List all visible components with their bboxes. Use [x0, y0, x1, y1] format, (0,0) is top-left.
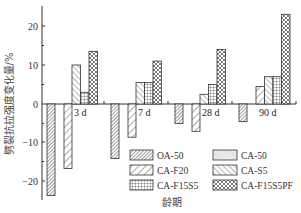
bar-7d-ca-f15s5 — [145, 83, 154, 105]
legend-swatch-ca-s5 — [213, 165, 237, 175]
bar-28d-ca-f15s5pf — [217, 49, 226, 104]
bar-90d-ca-f15s5pf — [282, 14, 291, 104]
legend-swatch-ca-f15s5 — [130, 180, 153, 190]
bar-7d-ca-f20 — [128, 104, 136, 137]
bar-3d-ca-f15s5 — [81, 92, 90, 104]
category-label-28d: 28 d — [202, 107, 220, 118]
y-tick-label-20: 20 — [28, 21, 38, 32]
bar-90d-ca-f20 — [256, 87, 265, 105]
legend-label-oa-50: OA-50 — [157, 151, 184, 161]
category-label-3d: 3 d — [74, 107, 87, 118]
y-tick-label-neg10: −10 — [22, 137, 38, 148]
x-axis-title: 龄期 — [162, 196, 182, 208]
bar-3d-ca-s5 — [72, 65, 81, 104]
bar-28d-oa-50 — [175, 104, 183, 124]
legend-label-ca-f15s5pf: CA-F15S5PF — [241, 181, 293, 191]
legend-label-ca-s5: CA-S5 — [241, 166, 268, 176]
bar-7d-oa-50 — [111, 104, 119, 159]
y-tick-label-0: 0 — [33, 99, 38, 110]
bar-chart: 20 10 0 −10 −20 劈裂抗拉强度变化量/% 3 d 7 d 28 d — [0, 0, 301, 213]
legend-swatch-ca-f20 — [130, 165, 153, 175]
legend-label-ca-f20: CA-F20 — [157, 166, 188, 176]
y-tick-label-10: 10 — [28, 60, 38, 71]
bar-3d-oa-50 — [47, 104, 55, 196]
y-axis-title: 劈裂抗拉强度变化量/% — [3, 53, 15, 156]
bar-7d-ca-f15s5pf — [153, 61, 162, 104]
bar-90d-ca-s5 — [265, 77, 274, 104]
category-label-7d: 7 d — [138, 107, 151, 118]
legend-label-ca-50: CA-50 — [241, 151, 267, 161]
bar-7d-ca-s5 — [136, 83, 145, 105]
bar-28d-ca-s5 — [200, 94, 209, 104]
legend-swatch-ca-50 — [213, 150, 237, 160]
legend-swatch-oa-50 — [130, 150, 153, 160]
bar-28d-ca-f20 — [192, 104, 200, 131]
legend-label-ca-f15s5: CA-F15S5 — [157, 181, 198, 191]
legend-swatch-ca-f15s5pf — [213, 180, 237, 190]
y-tick-label-neg20: −20 — [22, 176, 38, 187]
bar-3d-ca-f20 — [64, 104, 72, 168]
bar-90d-oa-50 — [239, 104, 247, 122]
bar-28d-ca-f15s5 — [209, 85, 218, 105]
bar-90d-ca-f15s5 — [273, 77, 282, 104]
bar-3d-ca-f15s5pf — [89, 51, 98, 104]
category-label-90d: 90 d — [259, 107, 277, 118]
